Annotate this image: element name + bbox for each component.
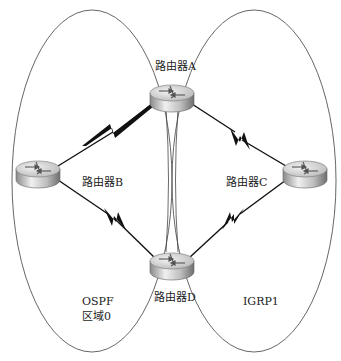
router-c-label: 路由器C bbox=[226, 176, 267, 189]
router-d-icon bbox=[150, 253, 194, 280]
igrp-area-label: IGRP1 bbox=[243, 295, 279, 308]
link-a-b bbox=[58, 103, 154, 166]
link-a-c bbox=[192, 104, 286, 166]
router-b-label: 路由器B bbox=[82, 176, 123, 189]
router-a-icon bbox=[150, 85, 194, 112]
link-b-d bbox=[58, 180, 155, 258]
ospf-area-label-line2: 区域0 bbox=[82, 310, 111, 323]
network-diagram: 路由器A 路由器B 路由器C 路由器D OSPF 区域0 IGRP1 bbox=[0, 0, 341, 361]
ospf-area-label-line1: OSPF bbox=[82, 295, 114, 308]
router-a-label: 路由器A bbox=[155, 60, 196, 73]
router-b-icon bbox=[16, 161, 60, 188]
router-c-icon bbox=[283, 161, 327, 188]
link-c-d bbox=[189, 180, 286, 258]
router-d-label: 路由器D bbox=[154, 291, 196, 304]
